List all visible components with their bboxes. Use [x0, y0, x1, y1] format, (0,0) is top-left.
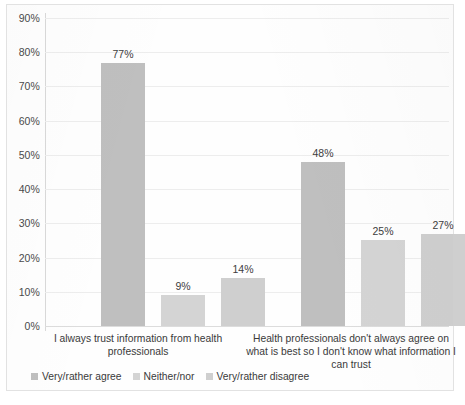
bar-value-label: 9%: [175, 280, 190, 292]
bar-1-0[interactable]: 48%: [301, 162, 345, 326]
bar-value-label: 77%: [112, 48, 133, 60]
bar-group-1: 48%25%27%: [301, 18, 465, 326]
legend-label: Very/rather agree: [42, 371, 122, 382]
y-axis-tick-label: 60%: [19, 115, 40, 127]
y-axis-tick-label: 50%: [19, 149, 40, 161]
legend-label: Very/rather disagree: [217, 371, 310, 382]
legend-swatch-icon: [31, 373, 38, 380]
chart-legend: Very/rather agreeNeither/norVery/rather …: [31, 371, 309, 382]
y-axis-tick-label: 20%: [19, 252, 40, 264]
bar-0-1[interactable]: 9%: [161, 295, 205, 326]
y-axis-tick-label: 70%: [19, 80, 40, 92]
y-axis-tick-label: 40%: [19, 183, 40, 195]
y-axis-tick-label: 30%: [19, 217, 40, 229]
legend-item-2[interactable]: Very/rather disagree: [206, 371, 310, 382]
chart-container: 0%10%20%30%40%50%60%70%80%90%77%9%14%48%…: [6, 4, 454, 391]
bar-value-label: 14%: [232, 263, 253, 275]
category-label-1: Health professionals don't always agree …: [243, 332, 459, 371]
bar-0-0[interactable]: 77%: [101, 63, 145, 327]
bar-value-label: 25%: [372, 225, 393, 237]
category-label-0: I always trust information from health p…: [43, 332, 233, 358]
bar-1-1[interactable]: 25%: [361, 240, 405, 326]
bar-value-label: 48%: [312, 147, 333, 159]
y-axis-tick-label: 90%: [19, 12, 40, 24]
bar-0-2[interactable]: 14%: [221, 278, 265, 326]
bar-1-2[interactable]: 27%: [421, 234, 465, 326]
bar-value-label: 27%: [432, 219, 453, 231]
legend-item-0[interactable]: Very/rather agree: [31, 371, 122, 382]
legend-swatch-icon: [133, 373, 140, 380]
gridline-0%: [45, 326, 449, 327]
y-axis-tick-label: 10%: [19, 286, 40, 298]
legend-item-1[interactable]: Neither/nor: [133, 371, 195, 382]
legend-label: Neither/nor: [144, 371, 195, 382]
bar-group-0: 77%9%14%: [101, 18, 265, 326]
legend-swatch-icon: [206, 373, 213, 380]
plot-area: 0%10%20%30%40%50%60%70%80%90%77%9%14%48%…: [45, 18, 449, 326]
y-axis-tick-label: 0%: [25, 320, 40, 332]
y-axis-tick-label: 80%: [19, 46, 40, 58]
